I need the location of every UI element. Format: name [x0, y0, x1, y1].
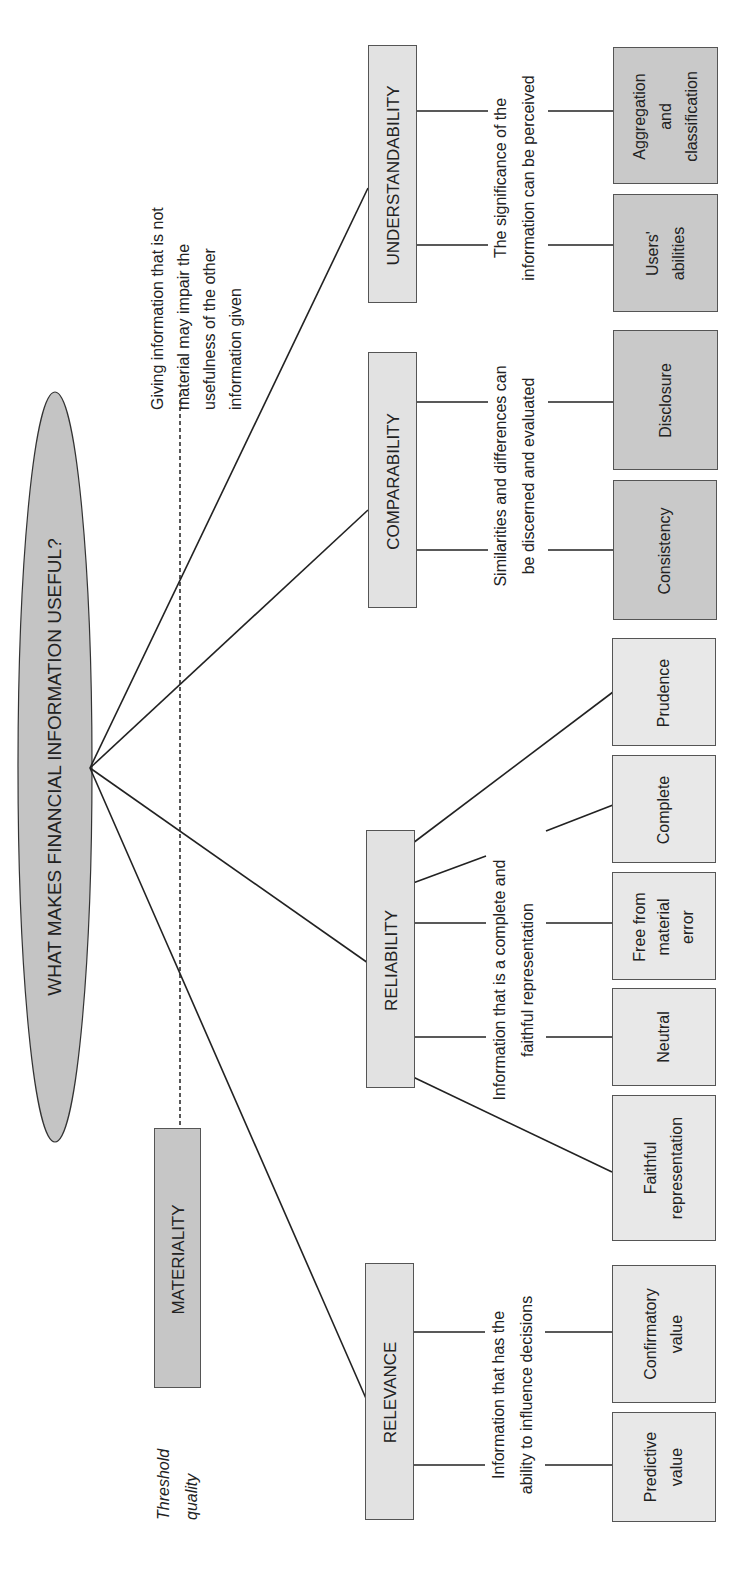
threshold-quality-label: Threshold quality	[150, 1400, 206, 1520]
relevance-label: RELEVANCE	[366, 1264, 415, 1521]
comparability-label: COMPARABILITY	[369, 354, 418, 610]
materiality-box[interactable]: MATERIALITY	[154, 1128, 201, 1388]
understandability-box[interactable]: UNDERSTANDABILITY	[368, 45, 417, 303]
child-disclosure[interactable]: Disclosure	[613, 330, 718, 470]
connector-relevance	[90, 768, 368, 1403]
child-faithful-representation[interactable]: Faithful representation	[612, 1095, 716, 1241]
child-users-abilities[interactable]: Users' abilities	[613, 194, 718, 312]
relevance-box[interactable]: RELEVANCE	[365, 1263, 414, 1520]
child-confirmatory-value[interactable]: Confirmatory value	[612, 1265, 716, 1403]
child-consistency[interactable]: Consistency	[613, 480, 717, 620]
materiality-label: MATERIALITY	[155, 1130, 202, 1390]
materiality-note-text: Giving information that is not material …	[145, 30, 255, 410]
understandability-label: UNDERSTANDABILITY	[369, 47, 418, 305]
connector-reliability	[90, 768, 368, 963]
child-aggregation-classification[interactable]: Aggregation and classification	[613, 47, 718, 184]
comparability-box[interactable]: COMPARABILITY	[368, 352, 417, 608]
child-predictive-value[interactable]: Predictive value	[612, 1412, 716, 1522]
connector-comparability	[90, 510, 368, 768]
reliability-label: RELIABILITY	[367, 832, 416, 1090]
reliability-box[interactable]: RELIABILITY	[366, 830, 415, 1088]
central-question-text: WHAT MAKES FINANCIAL INFORMATION USEFUL?	[43, 417, 67, 1117]
child-free-from-material-error[interactable]: Free from material error	[612, 872, 716, 980]
child-prudence[interactable]: Prudence	[612, 638, 716, 746]
child-complete[interactable]: Complete	[612, 755, 716, 863]
child-neutral[interactable]: Neutral	[612, 988, 716, 1086]
